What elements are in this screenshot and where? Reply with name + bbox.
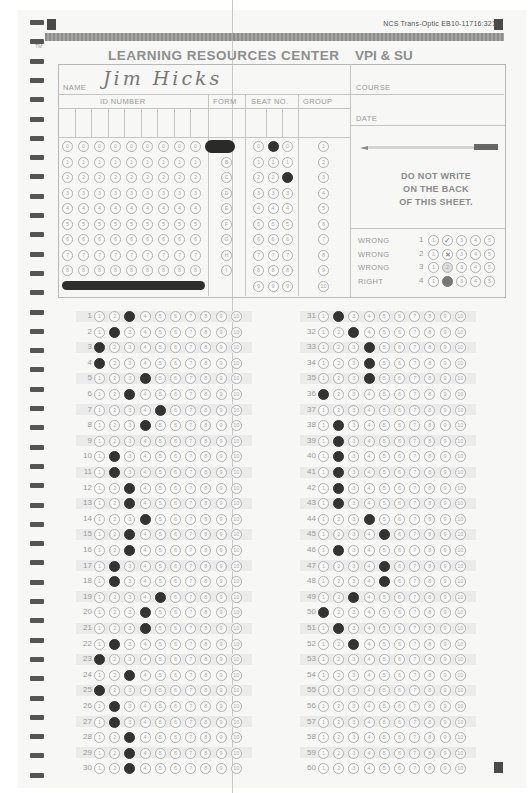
answer-bubble-18-9[interactable]: 9: [216, 576, 227, 587]
answer-bubble-59-6[interactable]: 6: [394, 748, 405, 759]
id-bubble-4-8[interactable]: 8: [110, 265, 121, 276]
seat-bubble-3-3[interactable]: 3: [282, 188, 293, 199]
answer-bubble-27-9[interactable]: 9: [216, 717, 227, 728]
answer-bubble-54-6[interactable]: 6: [394, 670, 405, 681]
id-bubble-9-7[interactable]: 7: [190, 250, 201, 261]
answer-bubble-23-5[interactable]: 5: [155, 654, 166, 665]
answer-bubble-2-8[interactable]: 8: [200, 327, 211, 338]
answer-bubble-31-10[interactable]: 10: [455, 311, 466, 322]
id-bubble-6-7[interactable]: 7: [142, 250, 153, 261]
answer-bubble-16-1[interactable]: 1: [94, 545, 105, 556]
id-bubble-7-1[interactable]: 1: [158, 157, 169, 168]
answer-bubble-17-10[interactable]: 10: [231, 561, 242, 572]
seat-bubble-3-5[interactable]: 5: [282, 219, 293, 230]
answer-bubble-37-1[interactable]: 1: [318, 405, 329, 416]
answer-bubble-44-10[interactable]: 10: [455, 514, 466, 525]
id-bubble-1-6[interactable]: 6: [62, 234, 73, 245]
answer-bubble-12-6[interactable]: 6: [170, 483, 181, 494]
form-bubble-G[interactable]: G: [221, 234, 232, 245]
answer-bubble-24-2[interactable]: 2: [109, 670, 120, 681]
answer-bubble-17-1[interactable]: 1: [94, 561, 105, 572]
answer-bubble-35-4[interactable]: 4: [364, 373, 375, 384]
answer-bubble-11-9[interactable]: 9: [216, 467, 227, 478]
answer-bubble-57-3[interactable]: 3: [348, 717, 359, 728]
answer-bubble-39-6[interactable]: 6: [394, 436, 405, 447]
form-bubble-E[interactable]: E: [221, 203, 232, 214]
answer-bubble-9-1[interactable]: 1: [94, 436, 105, 447]
answer-bubble-19-4[interactable]: 4: [140, 592, 151, 603]
answer-bubble-29-10[interactable]: 10: [231, 748, 242, 759]
seat-bubble-2-0[interactable]: 0: [268, 141, 279, 152]
answer-bubble-57-5[interactable]: 5: [379, 717, 390, 728]
group-bubble-9[interactable]: 9: [318, 265, 329, 276]
group-bubble-6[interactable]: 6: [318, 219, 329, 230]
answer-bubble-37-8[interactable]: 8: [424, 405, 435, 416]
id-bubble-8-6[interactable]: 6: [174, 234, 185, 245]
answer-bubble-51-9[interactable]: 9: [440, 623, 451, 634]
answer-bubble-48-9[interactable]: 9: [440, 576, 451, 587]
answer-bubble-39-1[interactable]: 1: [318, 436, 329, 447]
answer-bubble-9-6[interactable]: 6: [170, 436, 181, 447]
answer-bubble-11-10[interactable]: 10: [231, 467, 242, 478]
answer-bubble-6-10[interactable]: 10: [231, 389, 242, 400]
answer-bubble-41-9[interactable]: 9: [440, 467, 451, 478]
answer-bubble-9-4[interactable]: 4: [140, 436, 151, 447]
answer-bubble-44-7[interactable]: 7: [409, 514, 420, 525]
answer-bubble-45-4[interactable]: 4: [364, 529, 375, 540]
answer-bubble-42-1[interactable]: 1: [318, 483, 329, 494]
answer-bubble-34-9[interactable]: 9: [440, 358, 451, 369]
id-bubble-3-8[interactable]: 8: [94, 265, 105, 276]
group-bubble-5[interactable]: 5: [318, 203, 329, 214]
answer-bubble-59-7[interactable]: 7: [409, 748, 420, 759]
id-bubble-6-0[interactable]: 0: [142, 141, 153, 152]
answer-bubble-2-9[interactable]: 9: [216, 327, 227, 338]
answer-bubble-22-8[interactable]: 8: [200, 639, 211, 650]
id-bubble-5-2[interactable]: 2: [126, 172, 137, 183]
answer-bubble-39-7[interactable]: 7: [409, 436, 420, 447]
id-bubble-6-4[interactable]: 4: [142, 203, 153, 214]
answer-bubble-52-7[interactable]: 7: [409, 639, 420, 650]
answer-bubble-2-3[interactable]: 3: [124, 327, 135, 338]
answer-bubble-12-2[interactable]: 2: [109, 483, 120, 494]
id-bubble-2-2[interactable]: 2: [78, 172, 89, 183]
group-bubble-2[interactable]: 2: [318, 157, 329, 168]
answer-bubble-57-4[interactable]: 4: [364, 717, 375, 728]
answer-bubble-12-10[interactable]: 10: [231, 483, 242, 494]
answer-bubble-30-9[interactable]: 9: [216, 763, 227, 774]
answer-bubble-49-4[interactable]: 4: [364, 592, 375, 603]
answer-bubble-56-10[interactable]: 10: [455, 701, 466, 712]
answer-bubble-4-2[interactable]: 2: [109, 358, 120, 369]
answer-bubble-37-3[interactable]: 3: [348, 405, 359, 416]
id-bubble-8-7[interactable]: 7: [174, 250, 185, 261]
seat-bubble-1-6[interactable]: 6: [253, 234, 264, 245]
id-bubble-8-0[interactable]: 0: [174, 141, 185, 152]
answer-bubble-52-6[interactable]: 6: [394, 639, 405, 650]
id-bubble-9-4[interactable]: 4: [190, 203, 201, 214]
answer-bubble-44-9[interactable]: 9: [440, 514, 451, 525]
answer-bubble-1-5[interactable]: 5: [155, 311, 166, 322]
answer-bubble-30-4[interactable]: 4: [140, 763, 151, 774]
seat-bubble-2-4[interactable]: 4: [268, 203, 279, 214]
answer-bubble-47-6[interactable]: 6: [394, 561, 405, 572]
answer-bubble-3-5[interactable]: 5: [155, 342, 166, 353]
answer-bubble-56-9[interactable]: 9: [440, 701, 451, 712]
answer-bubble-6-1[interactable]: 1: [94, 389, 105, 400]
seat-bubble-3-7[interactable]: 7: [282, 250, 293, 261]
answer-bubble-41-1[interactable]: 1: [318, 467, 329, 478]
answer-bubble-49-5[interactable]: 5: [379, 592, 390, 603]
answer-bubble-36-1[interactable]: 1: [318, 389, 329, 400]
answer-bubble-32-1[interactable]: 1: [318, 327, 329, 338]
id-bubble-1-0[interactable]: 0: [62, 141, 73, 152]
answer-bubble-24-1[interactable]: 1: [94, 670, 105, 681]
answer-bubble-17-2[interactable]: 2: [109, 561, 120, 572]
answer-bubble-46-5[interactable]: 5: [379, 545, 390, 556]
id-bubble-3-4[interactable]: 4: [94, 203, 105, 214]
answer-bubble-11-1[interactable]: 1: [94, 467, 105, 478]
seat-bubble-2-8[interactable]: 8: [268, 265, 279, 276]
answer-bubble-50-9[interactable]: 9: [440, 607, 451, 618]
answer-bubble-1-4[interactable]: 4: [140, 311, 151, 322]
answer-bubble-4-9[interactable]: 9: [216, 358, 227, 369]
answer-bubble-16-9[interactable]: 9: [216, 545, 227, 556]
id-bubble-8-2[interactable]: 2: [174, 172, 185, 183]
answer-bubble-20-9[interactable]: 9: [216, 607, 227, 618]
